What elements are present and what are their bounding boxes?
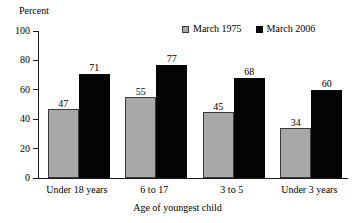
x-axis-category-label: Under 3 years <box>271 184 349 196</box>
bar: 68 <box>234 78 265 178</box>
y-axis-tick-label: 0 <box>2 173 30 183</box>
x-axis-line <box>38 178 348 179</box>
bar-value-label: 77 <box>167 53 177 64</box>
y-axis-tick-label: 80 <box>2 55 30 65</box>
y-axis-tick-label: 40 <box>2 114 30 124</box>
bar: 77 <box>156 65 187 178</box>
y-axis-tick-label: 100 <box>2 26 30 36</box>
plot-area: 4771557745683460 <box>38 31 348 178</box>
bar: 60 <box>311 90 342 178</box>
bar: 55 <box>125 97 156 178</box>
bar-value-label: 45 <box>213 101 223 112</box>
black-square-swatch <box>256 26 263 33</box>
bar-group: 4568 <box>203 31 265 178</box>
y-axis-tick-label: 20 <box>2 144 30 154</box>
bar: 34 <box>280 128 311 178</box>
x-axis-category-label: Under 18 years <box>38 184 116 196</box>
legend-item: March 2006 <box>256 23 316 35</box>
bar-group: 3460 <box>280 31 342 178</box>
gray-square-swatch <box>182 26 189 33</box>
legend-item: March 1975 <box>182 23 242 35</box>
legend-label: March 2006 <box>267 23 316 35</box>
bar: 45 <box>203 112 234 178</box>
bar-group: 5577 <box>125 31 187 178</box>
legend-label: March 1975 <box>193 23 242 35</box>
bar-value-label: 68 <box>244 66 254 77</box>
x-axis-title: Age of youngest child <box>0 202 355 214</box>
x-axis-category-label: 3 to 5 <box>193 184 271 196</box>
chart-legend: March 1975March 2006 <box>182 23 315 35</box>
bar-value-label: 47 <box>58 98 68 109</box>
bar: 71 <box>79 74 110 178</box>
bar-group: 4771 <box>48 31 110 178</box>
bar-value-label: 55 <box>136 86 146 97</box>
x-axis-category-label: 6 to 17 <box>116 184 194 196</box>
bar-value-label: 71 <box>89 62 99 73</box>
bar-value-label: 34 <box>291 117 301 128</box>
bar: 47 <box>48 109 79 178</box>
y-axis-unit-label: Percent <box>19 5 49 17</box>
bar-value-label: 60 <box>322 78 332 89</box>
bar-chart: Percent 020406080100 4771557745683460 Un… <box>0 0 355 223</box>
y-axis-tick-label: 60 <box>2 85 30 95</box>
